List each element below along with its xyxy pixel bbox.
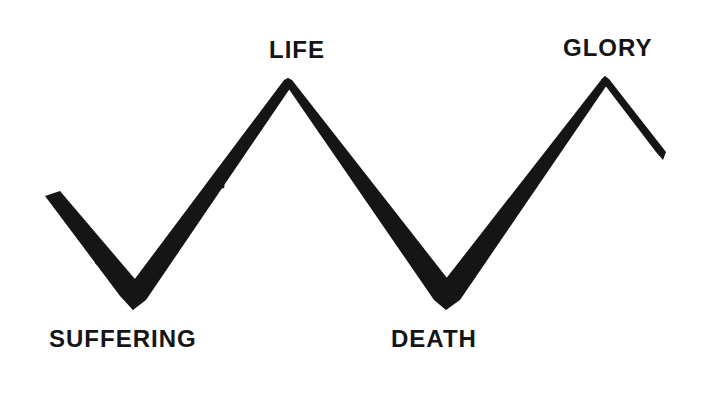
segment-death-to-glory (434, 76, 609, 310)
label-glory: GLORY (563, 36, 652, 60)
label-death: DEATH (391, 327, 477, 351)
segment-glory-to-end (601, 76, 666, 160)
label-life: LIFE (269, 38, 325, 62)
label-suffering: SUFFERING (49, 327, 197, 351)
segment-life-to-death (284, 78, 458, 310)
stroke-texture (67, 113, 634, 266)
segment-suffering-to-life (122, 78, 293, 310)
